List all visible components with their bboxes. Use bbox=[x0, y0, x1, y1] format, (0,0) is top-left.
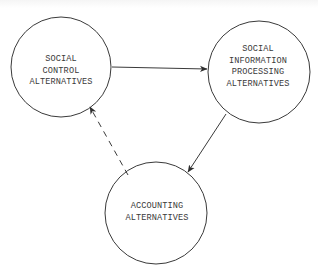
node-label-social-control: SOCIAL CONTROL ALTERNATIVES bbox=[21, 54, 101, 89]
label-line: SOCIAL bbox=[21, 54, 101, 66]
diagram-graphics bbox=[0, 0, 318, 274]
label-line: PROCESSING bbox=[216, 67, 300, 79]
label-line: INFORMATION bbox=[216, 56, 300, 68]
label-line: ALTERNATIVES bbox=[21, 77, 101, 89]
label-line: ALTERNATIVES bbox=[216, 79, 300, 91]
label-line: ALTERNATIVES bbox=[116, 213, 198, 225]
label-line: CONTROL bbox=[21, 66, 101, 78]
node-label-social-information-processing: SOCIAL INFORMATION PROCESSING ALTERNATIV… bbox=[216, 44, 300, 90]
label-line: SOCIAL bbox=[216, 44, 300, 56]
edge-social-control-to-information-processing bbox=[112, 67, 207, 69]
edge-accounting-to-social-control-dashed bbox=[90, 107, 128, 175]
node-label-accounting: ACCOUNTING ALTERNATIVES bbox=[116, 201, 198, 224]
label-line: ACCOUNTING bbox=[116, 201, 198, 213]
edge-information-processing-to-accounting bbox=[188, 114, 226, 172]
diagram-canvas: SOCIAL CONTROL ALTERNATIVES SOCIAL INFOR… bbox=[0, 0, 318, 274]
